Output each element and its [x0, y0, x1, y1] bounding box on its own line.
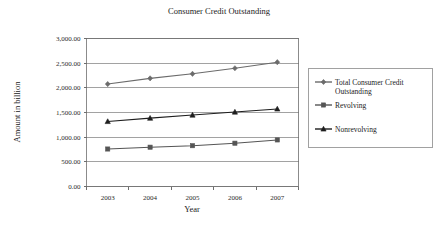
data-point-marker [106, 147, 110, 151]
x-tick-label: 2005 [186, 194, 201, 202]
y-tick-label: 3,000.00 [56, 35, 81, 43]
y-tick-label: 1,500.00 [56, 109, 81, 117]
x-tick-label: 2003 [101, 194, 116, 202]
y-tick-label: 500.00 [61, 158, 81, 166]
chart-legend: Total Consumer CreditOutstandingRevolvin… [309, 69, 433, 148]
y-tick-label: 1,000.00 [56, 134, 81, 142]
x-tick-label: 2006 [228, 194, 243, 202]
legend-label: Total Consumer Credit [335, 78, 405, 87]
legend-label-line2: Outstanding [335, 87, 372, 96]
data-point-marker [148, 145, 152, 149]
chart-title: Consumer Credit Outstanding [168, 6, 271, 16]
x-tick-label: 2007 [270, 194, 285, 202]
y-axis-title: Amount in billion [12, 81, 22, 143]
data-point-marker [190, 144, 194, 148]
x-tick-label: 2004 [143, 194, 158, 202]
legend-marker [321, 103, 325, 107]
data-point-marker [233, 141, 237, 145]
y-tick-label: 0.00 [68, 183, 81, 191]
x-axis-title: Year [184, 204, 200, 214]
y-tick-label: 2,500.00 [56, 60, 81, 68]
legend-label: Nonrevolving [335, 125, 377, 134]
consumer-credit-line-chart: Consumer Credit Outstanding 0.00500.001,… [0, 0, 438, 231]
data-point-marker [275, 138, 279, 142]
legend-label: Revolving [335, 101, 366, 110]
chart-container: Consumer Credit Outstanding 0.00500.001,… [0, 0, 438, 231]
y-tick-label: 2,000.00 [56, 84, 81, 92]
